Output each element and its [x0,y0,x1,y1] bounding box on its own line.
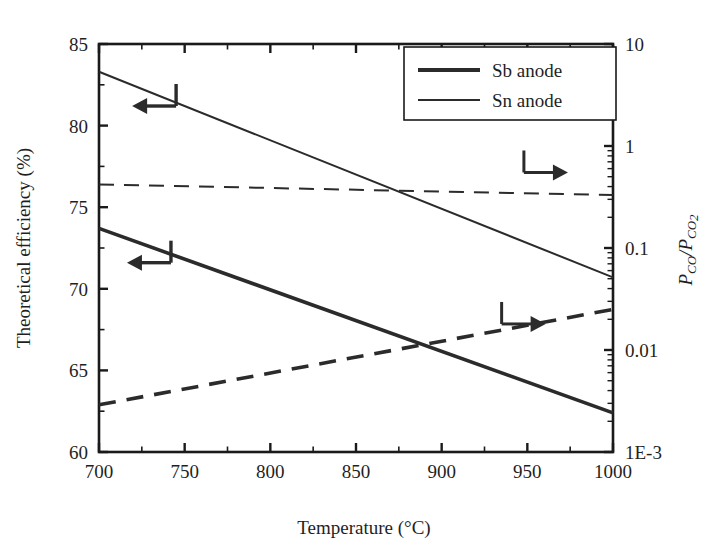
data-series-group [99,72,613,413]
y-right-axis-tick-labels: 1E-30.010.1110 [625,34,662,463]
y-right-axis-title: PCO/PCO2 [675,214,701,287]
y-left-axis-tick-labels: 606570758085 [69,34,88,463]
legend-label-sn-anode: Sn anode [492,90,562,111]
y-right-tick-label: 0.01 [625,340,658,361]
x-tick-label: 850 [342,461,371,482]
y-right-tick-label: 0.1 [625,238,649,259]
svg-text:PCO/PCO2: PCO/PCO2 [675,214,701,287]
x-tick-label: 1000 [594,461,632,482]
yr-label-p2: P [675,239,696,252]
y-left-tick-label: 60 [69,442,88,463]
y-left-axis-ticks [99,44,108,452]
y-left-tick-label: 70 [69,279,88,300]
series-line [99,184,613,195]
x-tick-label: 800 [256,461,285,482]
axis-pointer-arrows [127,84,568,332]
yr-label-sub2b: 2 [686,214,701,221]
arrow-right-upper [524,150,568,180]
x-tick-label: 950 [513,461,542,482]
yr-label-sub2: CO [684,220,699,239]
y-right-tick-label: 1E-3 [625,442,662,463]
yr-label-p1: P [675,274,696,287]
figure-container: 7007508008509009501000 606570758085 1E-3… [0,0,728,553]
y-left-tick-label: 80 [69,116,88,137]
x-tick-label: 900 [427,461,456,482]
chart-canvas: 7007508008509009501000 606570758085 1E-3… [0,0,728,553]
y-right-tick-label: 10 [625,34,644,55]
legend-label-sb-anode: Sb anode [492,60,562,81]
y-left-axis-title: Theoretical efficiency (%) [13,148,35,348]
y-left-tick-label: 85 [69,34,88,55]
x-tick-label: 750 [170,461,199,482]
yr-label-sub1: CO [684,255,699,274]
x-tick-label: 700 [85,461,114,482]
x-axis-tick-labels: 7007508008509009501000 [85,461,632,482]
legend[interactable]: Sb anode Sn anode [404,47,616,120]
y-left-tick-label: 65 [69,360,88,381]
y-right-tick-label: 1 [625,136,635,157]
y-left-tick-label: 75 [69,197,88,218]
x-axis-title: Temperature (°C) [297,517,430,539]
